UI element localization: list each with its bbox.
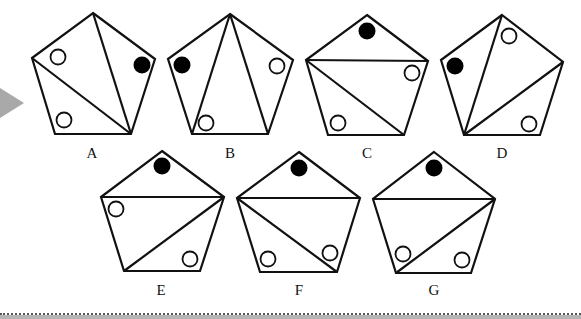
open-circle-icon <box>323 246 338 261</box>
option-f <box>237 152 360 272</box>
open-circle-icon <box>57 113 72 128</box>
filled-circle-icon <box>291 160 308 177</box>
filled-circle-icon <box>426 160 443 177</box>
pentagon-shape <box>168 14 293 134</box>
diagonal-line <box>464 62 563 135</box>
open-circle-icon <box>109 202 124 217</box>
open-circle-icon <box>455 253 470 268</box>
option-d <box>441 15 563 135</box>
option-c <box>306 15 428 135</box>
diagonal-line <box>306 60 428 61</box>
open-circle-icon <box>331 116 346 131</box>
diagonal-line <box>192 14 230 134</box>
open-circle-icon <box>405 66 420 81</box>
open-circle-icon <box>199 116 214 131</box>
open-circle-icon <box>51 50 66 65</box>
option-g <box>373 152 495 273</box>
diagonal-line <box>396 199 495 273</box>
option-label-d: D <box>497 146 508 161</box>
filled-circle-icon <box>447 58 464 75</box>
filled-circle-icon <box>174 57 191 74</box>
open-circle-icon <box>183 252 198 267</box>
option-b <box>168 14 293 134</box>
open-circle-icon <box>396 247 411 262</box>
diagonal-line <box>464 15 502 135</box>
diagonal-line <box>237 198 337 272</box>
option-label-e: E <box>156 283 165 298</box>
filled-circle-icon <box>134 57 151 74</box>
diagonal-line <box>32 58 131 134</box>
filled-circle-icon <box>154 158 171 175</box>
diagonal-line <box>93 13 131 134</box>
diagonal-line <box>124 197 224 271</box>
footer-band <box>0 315 581 319</box>
diagonal-line <box>306 60 404 135</box>
diagonal-line <box>230 14 268 134</box>
option-label-c: C <box>362 146 372 161</box>
puzzle-figure: ABCDEFG <box>0 0 581 319</box>
option-e <box>101 151 224 271</box>
open-circle-icon <box>261 252 276 267</box>
open-circle-icon <box>502 29 517 44</box>
option-a <box>32 13 155 134</box>
option-label-a: A <box>87 146 98 161</box>
option-label-f: F <box>295 283 303 298</box>
option-label-b: B <box>225 146 235 161</box>
option-label-g: G <box>429 283 440 298</box>
options-layer <box>32 13 563 273</box>
open-circle-icon <box>522 117 537 132</box>
filled-circle-icon <box>359 23 376 40</box>
pointer-arrow-icon <box>0 88 24 118</box>
open-circle-icon <box>270 59 285 74</box>
